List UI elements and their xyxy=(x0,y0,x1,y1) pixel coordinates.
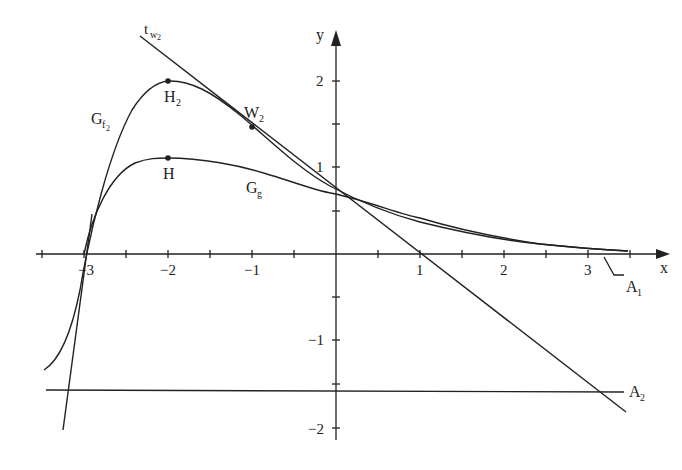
a1-leader-line xyxy=(604,257,624,275)
svg-text:1: 1 xyxy=(316,159,324,175)
svg-text:−1: −1 xyxy=(308,332,324,348)
svg-text:g: g xyxy=(257,188,262,199)
point-h2 xyxy=(165,78,171,84)
svg-text:2: 2 xyxy=(106,124,110,133)
y-tick-labels: 2 1 −1 −2 xyxy=(308,73,324,437)
svg-text:2: 2 xyxy=(157,33,161,42)
label-tw2: t w 2 xyxy=(144,21,161,42)
y-axis-arrow-icon xyxy=(331,30,341,46)
label-h: H xyxy=(163,165,175,182)
asymptote-a2 xyxy=(46,390,624,392)
svg-text:1: 1 xyxy=(637,287,642,298)
label-a1: A 1 xyxy=(626,278,642,298)
label-gg: G g xyxy=(246,179,262,199)
x-axis-label: x xyxy=(660,259,668,276)
svg-text:2: 2 xyxy=(500,262,508,278)
svg-text:−2: −2 xyxy=(160,262,176,278)
svg-text:−3: −3 xyxy=(78,262,94,278)
label-gf2: G f 2 xyxy=(91,110,110,133)
svg-text:2: 2 xyxy=(176,97,181,108)
point-w2 xyxy=(249,124,255,130)
function-graph: −3 −2 −1 1 2 3 2 1 −1 −2 y x t w 2 G f 2… xyxy=(0,0,682,470)
svg-text:3: 3 xyxy=(584,262,592,278)
svg-text:2: 2 xyxy=(259,113,264,124)
x-tick-labels: −3 −2 −1 1 2 3 xyxy=(78,262,592,278)
svg-text:W: W xyxy=(244,104,260,121)
label-a2: A 2 xyxy=(629,383,645,403)
svg-text:−2: −2 xyxy=(308,421,324,437)
svg-text:2: 2 xyxy=(640,392,645,403)
svg-text:1: 1 xyxy=(416,262,424,278)
point-h xyxy=(165,155,171,161)
label-h2: H 2 xyxy=(164,88,181,108)
svg-text:−1: −1 xyxy=(244,262,260,278)
svg-text:H: H xyxy=(164,88,176,105)
x-axis-arrow-icon xyxy=(656,249,670,259)
svg-text:t: t xyxy=(144,21,149,37)
y-axis-label: y xyxy=(316,26,324,44)
tangent-line-tw2 xyxy=(140,36,626,412)
svg-text:2: 2 xyxy=(316,73,324,89)
